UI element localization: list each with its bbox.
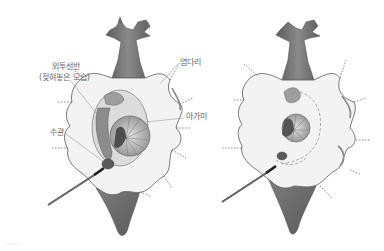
label-siphon: 수관	[50, 128, 64, 138]
right-gill	[282, 114, 310, 142]
left-head-stalk	[106, 16, 150, 78]
diagram-canvas: 외투선반 (젖혀놓은 모습) 염다리 아가미 수관 ·····	[0, 0, 384, 251]
right-head-stalk	[276, 20, 320, 80]
footer-marks: ·····	[6, 240, 21, 247]
label-mantle-shelf: 외투선반	[52, 62, 80, 72]
left-tail	[96, 188, 140, 235]
label-mantle-shelf-note: (젖혀놓은 모습)	[39, 73, 90, 83]
label-fin-edge: 염다리	[180, 58, 201, 68]
right-specimen	[222, 20, 370, 234]
left-specimen	[48, 16, 193, 235]
left-siphon	[102, 159, 114, 169]
right-probe	[222, 166, 276, 202]
label-gill: 아가미	[186, 112, 207, 122]
